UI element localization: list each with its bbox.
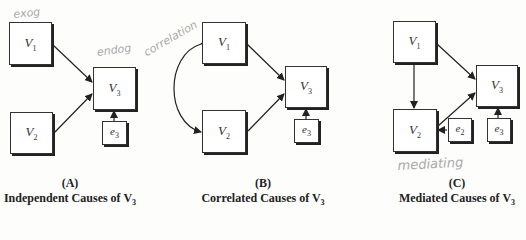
- caption-c: (C) Mediated Causes of V3: [399, 176, 515, 207]
- node-a-v2: V2: [10, 112, 53, 154]
- caption-c-letter: (C): [399, 176, 515, 191]
- node-b-v1: V1: [202, 22, 246, 64]
- node-b-e3: e3: [294, 119, 319, 143]
- caption-a: (A) Independent Causes of V3: [4, 176, 136, 207]
- node-c-v1: V1: [393, 21, 436, 63]
- caption-a-title: Independent Causes of V3: [4, 191, 136, 207]
- node-c-v3: V3: [476, 65, 518, 107]
- caption-a-letter: (A): [4, 176, 136, 191]
- caption-b: (B) Correlated Causes of V3: [201, 176, 324, 207]
- edge-b-v1-v2-correlation: [174, 44, 201, 132]
- edge-b-v2-v3: [248, 94, 284, 131]
- node-b-v2: V2: [202, 110, 246, 153]
- node-b-v3: V3: [285, 66, 327, 108]
- node-a-e3: e3: [102, 121, 127, 145]
- edge-a-v2-v3: [54, 94, 92, 133]
- edge-b-v1-v3: [247, 44, 284, 80]
- node-c-e2: e2: [448, 118, 472, 142]
- node-a-v3: V3: [93, 67, 136, 110]
- caption-b-letter: (B): [201, 176, 324, 191]
- caption-b-title: Correlated Causes of V3: [201, 191, 324, 207]
- node-c-e3: e3: [487, 118, 511, 142]
- node-c-v2: V2: [393, 109, 437, 152]
- node-a-v1: V1: [9, 22, 52, 65]
- edge-c-v1-v3: [437, 44, 475, 79]
- caption-c-title: Mediated Causes of V3: [399, 191, 515, 207]
- edge-a-v1-v3: [53, 45, 92, 82]
